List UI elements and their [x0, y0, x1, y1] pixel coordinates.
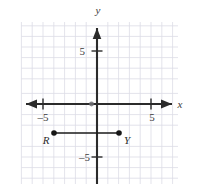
- point-r-label: R: [42, 134, 50, 146]
- origin-marker-dot: [89, 102, 94, 107]
- y-tick-label-pos-5: 5: [80, 45, 86, 57]
- x-tick-label-neg-5: –5: [37, 111, 50, 123]
- point-r-dot[interactable]: [51, 130, 57, 136]
- x-tick-label-pos-5: 5: [149, 111, 155, 123]
- y-tick-label-neg-5: –5: [78, 151, 91, 163]
- y-axis-label: y: [95, 4, 101, 16]
- y-axis-arrow-up: [93, 28, 102, 39]
- coordinate-plane-svg: x y –5 5 5 –5 R Y: [0, 0, 201, 184]
- point-y-dot[interactable]: [116, 130, 122, 136]
- x-axis-arrow-left: [26, 100, 37, 109]
- coordinate-plane-figure: x y –5 5 5 –5 R Y: [0, 0, 201, 184]
- x-axis-arrow-right: [161, 100, 172, 109]
- x-axis-label: x: [177, 98, 183, 110]
- point-y-label: Y: [124, 134, 132, 146]
